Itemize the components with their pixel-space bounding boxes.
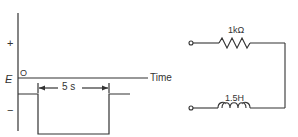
origin-label: O	[20, 69, 27, 78]
pulse-waveform	[18, 94, 130, 134]
y-axis-positive-label: +	[7, 38, 13, 49]
inductor-icon	[218, 102, 250, 108]
y-axis-negative-label: −	[7, 105, 13, 116]
resistor-label: 1kΩ	[228, 26, 244, 35]
time-axis-label: Time	[150, 73, 172, 83]
inductor-label: 1.5H	[225, 94, 244, 103]
duration-arrow-right-icon	[102, 86, 108, 91]
duration-arrow-left-icon	[39, 86, 45, 91]
diagram-canvas	[0, 0, 298, 137]
terminal-bottom	[189, 106, 193, 110]
resistor-icon	[219, 38, 250, 48]
terminal-top	[189, 41, 193, 45]
level-e-label: E	[5, 74, 12, 85]
pulse-duration-label: 5 s	[60, 82, 77, 92]
